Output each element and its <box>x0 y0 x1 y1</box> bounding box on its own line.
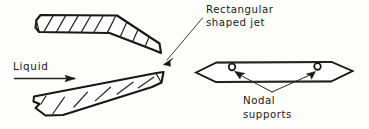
liquid-label: Liquid <box>13 60 49 72</box>
nodal-support-marker-left <box>229 64 236 71</box>
engineering-figure: Liquid Rectangular shaped jet Nodal supp… <box>0 0 369 129</box>
jet-label-line1: Rectangular <box>206 4 274 15</box>
figure-root: Liquid Rectangular shaped jet Nodal supp… <box>0 0 369 129</box>
jet-leader-arrow <box>163 18 202 66</box>
nodal-support-marker-right <box>314 63 321 70</box>
nodal-supports-label-line1: Nodal <box>243 95 275 106</box>
jet-label-line2: shaped jet <box>206 17 265 28</box>
nodal-supports-label-line2: supports <box>243 109 292 120</box>
liquid-flow-arrow <box>14 75 76 82</box>
upper-nozzle-blade <box>36 15 162 53</box>
rectangular-jet-cross-section <box>196 62 353 82</box>
